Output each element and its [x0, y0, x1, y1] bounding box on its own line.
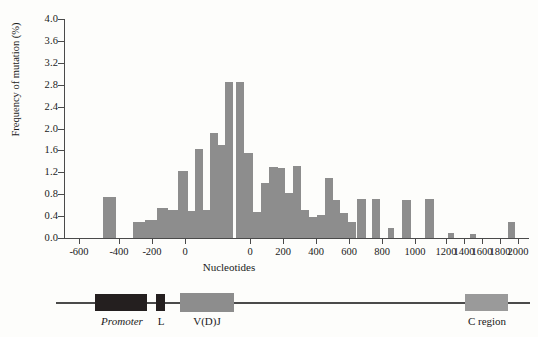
x-axis-tick [185, 238, 186, 244]
x-axis-tick [283, 238, 284, 244]
histogram-bar [348, 222, 356, 238]
histogram-bar [244, 153, 253, 238]
histogram-bar [145, 220, 157, 238]
y-axis-title: Frequency of mutation (%) [10, 0, 21, 165]
histogram-bar [325, 178, 333, 238]
y-axis-tick-label: 3.6 [45, 36, 58, 46]
x-axis-tick [250, 238, 251, 244]
histogram-bar [508, 222, 515, 238]
gene-label-promoter: Promoter [101, 315, 143, 327]
histogram-bar [372, 199, 380, 238]
histogram-bar [269, 167, 278, 238]
histogram-bar [225, 82, 233, 238]
gene-segment-promoter [95, 294, 147, 311]
x-axis-tick [518, 238, 519, 244]
histogram-bar [402, 200, 411, 238]
histogram-bars [64, 19, 529, 238]
y-axis-tick-label: 1.2 [45, 167, 58, 177]
histogram-bar [448, 233, 454, 238]
x-axis-tick-label: -400 [109, 246, 128, 257]
y-axis-tick-label: 1.6 [45, 145, 58, 155]
gene-segment-c-region [465, 294, 508, 311]
x-axis-tick-label: 1000 [405, 246, 426, 257]
x-axis-tick [446, 238, 447, 244]
histogram-bar [340, 213, 348, 238]
figure-container: 4.03.63.22.82.42.01.61.20.80.40.0 Freque… [0, 0, 538, 337]
histogram-bar [309, 217, 317, 238]
x-axis-tick-label: 200 [275, 246, 291, 257]
x-axis-line [64, 238, 529, 239]
histogram-bar [470, 234, 476, 238]
histogram-bar [236, 82, 244, 238]
gene-label-c-region: C region [468, 315, 506, 327]
histogram-bar [210, 133, 218, 238]
y-axis-tick-label: 0.0 [45, 233, 58, 243]
x-axis-tick-label: 0 [182, 246, 187, 257]
histogram-bar [333, 200, 340, 238]
histogram-bar [203, 210, 210, 238]
x-axis-tick-label: 800 [374, 246, 390, 257]
histogram-bar [317, 215, 325, 238]
y-axis-tick-label: 0.4 [45, 211, 58, 221]
histogram-bar [188, 211, 195, 238]
x-axis-title: Nucleotides [64, 261, 394, 273]
x-axis-tick [464, 238, 465, 244]
histogram-bar [357, 199, 366, 238]
x-axis-tick [316, 238, 317, 244]
x-axis-tick [79, 238, 80, 244]
x-axis-tick [500, 238, 501, 244]
x-axis-tick [119, 238, 120, 244]
histogram-bar [218, 145, 225, 238]
gene-structure-diagram: PromoterLV(D)JC region [0, 284, 538, 337]
histogram-bar [195, 149, 203, 238]
histogram-bar [278, 168, 285, 238]
y-axis-tick-label: 0.8 [45, 189, 58, 199]
y-axis-tick-label: 2.0 [45, 124, 58, 134]
gene-label-leader: L [158, 315, 165, 327]
histogram-bar [103, 197, 116, 238]
histogram-bar [168, 210, 178, 238]
histogram-bar [388, 228, 394, 238]
x-axis-tick [152, 238, 153, 244]
x-axis-tick [415, 238, 416, 244]
x-axis-tick-label: 400 [308, 246, 324, 257]
x-axis-tick-label: 0 [247, 246, 252, 257]
gene-segment-vdj [180, 293, 234, 312]
x-axis-tick-label: 600 [341, 246, 357, 257]
x-axis-tick-label: -600 [69, 246, 88, 257]
histogram-bar [425, 199, 434, 238]
histogram-bar [285, 193, 293, 238]
histogram-bar [301, 210, 309, 238]
histogram-bar [253, 212, 261, 238]
y-axis-tick-label: 3.2 [45, 58, 58, 68]
histogram-bar [178, 171, 188, 238]
x-axis-tick-label: 2000 [508, 246, 529, 257]
x-axis-tick-label: -200 [142, 246, 161, 257]
y-axis-tick-label: 2.4 [45, 102, 58, 112]
y-axis-tick-label: 4.0 [45, 14, 58, 24]
y-axis-tick-label: 2.8 [45, 80, 58, 90]
histogram-bar [157, 208, 168, 238]
x-axis-tick [482, 238, 483, 244]
y-axis-tick-labels: 4.03.63.22.82.42.01.61.20.80.40.0 [26, 19, 58, 239]
histogram-bar [133, 222, 145, 238]
gene-label-vdj: V(D)J [193, 315, 221, 327]
gene-segment-leader [156, 294, 165, 311]
histogram-bar [261, 183, 269, 238]
x-axis-tick [349, 238, 350, 244]
y-axis-tick [58, 238, 64, 239]
histogram-bar [293, 166, 301, 238]
x-axis-tick [382, 238, 383, 244]
